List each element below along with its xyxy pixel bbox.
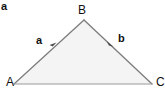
vertex-label-C: C (156, 76, 165, 88)
triangle-shape (14, 20, 152, 84)
vertex-label-A: A (6, 76, 14, 88)
vector-label-b: b (118, 33, 125, 44)
vector-label-a: a (36, 35, 42, 46)
figure-panel: a A B C a b (0, 0, 165, 96)
vertex-label-B: B (78, 4, 86, 16)
panel-label: a (1, 1, 7, 12)
